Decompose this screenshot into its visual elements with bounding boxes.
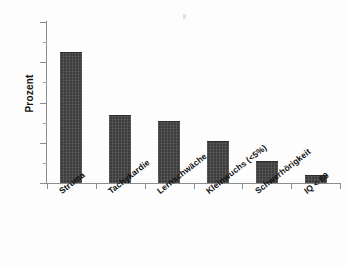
bar-chart-figure: Prozent 020406080 StrumaTachykardieLerns… bbox=[0, 0, 347, 267]
x-tick-0 bbox=[47, 183, 48, 189]
y-tick-label-wrap-0: 0 bbox=[0, 183, 40, 184]
y-tick-60 bbox=[40, 62, 47, 63]
x-tick-2 bbox=[145, 183, 146, 189]
y-tick-40 bbox=[40, 103, 47, 104]
y-axis-title: Prozent bbox=[24, 74, 35, 112]
x-tick-1 bbox=[96, 183, 97, 189]
y-tick-label-wrap-60: 60 bbox=[0, 62, 40, 63]
x-tick-5 bbox=[291, 183, 292, 189]
x-tick-6 bbox=[340, 183, 341, 189]
y-tick-label-wrap-80: 80 bbox=[0, 22, 40, 23]
y-tick-label-wrap-20: 20 bbox=[0, 143, 40, 144]
y-tick-20 bbox=[40, 143, 47, 144]
bar bbox=[60, 52, 82, 183]
x-tick-3 bbox=[194, 183, 195, 189]
y-tick-0 bbox=[40, 183, 47, 184]
y-tick-80 bbox=[40, 22, 47, 23]
scan-artifact-speck bbox=[183, 14, 186, 19]
y-tick-label-wrap-40: 40 bbox=[0, 103, 40, 104]
x-tick-4 bbox=[242, 183, 243, 189]
